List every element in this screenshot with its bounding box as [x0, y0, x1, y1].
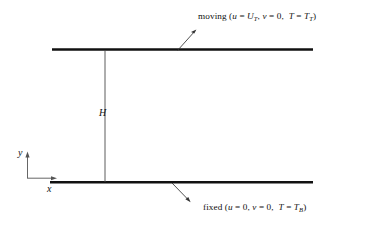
bottom-t-symbol: T	[279, 202, 284, 212]
diagram-vector-layer	[0, 0, 366, 229]
x-axis-label: x	[47, 183, 51, 194]
top-plate-condition-label: moving (u = UT, v = 0, T = TT)	[198, 11, 316, 21]
bottom-plate-condition-label: fixed (u = 0, v = 0, T = TB)	[203, 202, 306, 212]
top-t-eq: =	[296, 11, 301, 21]
x-axis-arrowhead	[51, 176, 57, 180]
bottom-u-symbol: u	[228, 202, 233, 212]
top-u-eq: =	[239, 11, 244, 21]
top-v-symbol: v	[262, 11, 266, 21]
y-axis-label: y	[18, 147, 22, 158]
top-leader-arrowhead	[191, 29, 196, 33]
bottom-t-subscript: B	[299, 206, 303, 213]
top-u-subscript: T	[254, 15, 258, 22]
y-axis-arrowhead	[25, 152, 29, 158]
bottom-paren-close: )	[303, 202, 306, 212]
bottom-leader-line	[172, 183, 189, 201]
top-t-subscript: T	[309, 15, 313, 22]
top-paren-close: )	[313, 11, 316, 21]
gap-dimension-label: H	[99, 107, 106, 118]
bottom-plate-state: fixed	[203, 202, 222, 212]
top-u-value: U	[247, 11, 254, 21]
figure-canvas: moving (u = UT, v = 0, T = TT) fixed (u …	[0, 0, 366, 229]
top-plate-state: moving	[198, 11, 227, 21]
top-leader-line	[178, 31, 196, 51]
